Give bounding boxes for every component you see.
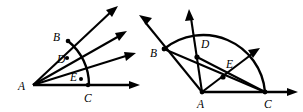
right-label-C: C	[264, 98, 272, 110]
geometry-figures-svg: A B D E C	[0, 0, 303, 112]
right-label-B: B	[150, 47, 157, 59]
left-arrowhead-AE	[124, 52, 136, 61]
right-point-B	[162, 47, 167, 52]
right-point-C	[263, 90, 268, 95]
left-label-E: E	[69, 71, 77, 83]
right-arrowhead-AB	[139, 15, 152, 25]
right-arrowhead-AC	[287, 88, 298, 96]
left-label-B: B	[53, 31, 60, 43]
left-label-C: C	[84, 92, 92, 104]
left-label-D: D	[56, 53, 66, 65]
right-point-D	[194, 54, 199, 59]
left-arrowhead-AC	[129, 81, 140, 89]
left-point-C	[86, 83, 90, 87]
left-label-A: A	[17, 80, 26, 92]
left-arrowhead-AD	[115, 31, 127, 41]
diagram-canvas: A B D E C	[0, 0, 303, 112]
right-label-D: D	[200, 38, 210, 50]
right-arrowhead-AD	[185, 9, 194, 21]
right-label-E: E	[225, 58, 233, 70]
left-point-B	[66, 39, 71, 44]
right-label-A: A	[196, 98, 205, 110]
right-point-E	[220, 74, 225, 79]
left-point-D	[65, 56, 69, 60]
left-figure: A B D E C	[17, 6, 140, 104]
left-point-E	[79, 77, 83, 81]
right-point-A	[200, 90, 205, 95]
right-figure: B D E A C	[139, 9, 298, 110]
